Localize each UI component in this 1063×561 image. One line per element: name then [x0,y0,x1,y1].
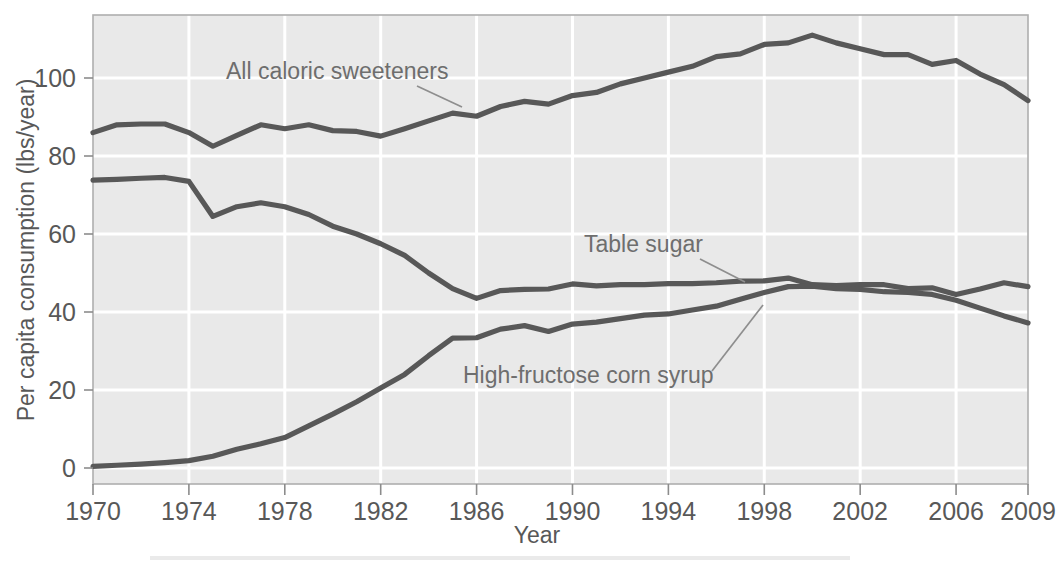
x-tick-label: 1982 [353,497,409,525]
y-axis-group: 020406080100 [34,64,93,482]
annotation-all-caloric-sweeteners: All caloric sweeteners [226,58,448,84]
y-tick-label: 40 [48,298,76,326]
y-tick-label: 100 [34,64,76,92]
chart-figure: 020406080100 197019741978198219861990199… [0,0,1063,561]
plot-area-background [93,15,1028,484]
x-axis-group: 1970197419781982198619901994199820022006… [65,484,1056,525]
x-tick-label: 1974 [161,497,217,525]
x-tick-label: 2009 [1000,497,1056,525]
y-tick-label: 60 [48,220,76,248]
y-tick-label: 20 [48,376,76,404]
y-axis-title: Per capita consumption (lbs/year) [13,79,39,422]
x-tick-label: 2002 [832,497,888,525]
x-tick-label: 1998 [736,497,792,525]
x-tick-label: 1986 [449,497,505,525]
x-tick-label: 2006 [928,497,984,525]
y-tick-label: 0 [62,454,76,482]
annotation-high-fructose-corn-syrup: High-fructose corn syrup [463,362,714,388]
y-tick-label: 80 [48,142,76,170]
x-tick-label: 1978 [257,497,313,525]
x-tick-label: 1990 [545,497,601,525]
line-chart-svg: 020406080100 197019741978198219861990199… [0,0,1063,561]
scan-artifact [150,556,850,560]
annotation-table-sugar: Table sugar [584,231,703,257]
x-axis-title: Year [514,522,561,548]
x-tick-label: 1970 [65,497,121,525]
x-tick-label: 1994 [641,497,697,525]
